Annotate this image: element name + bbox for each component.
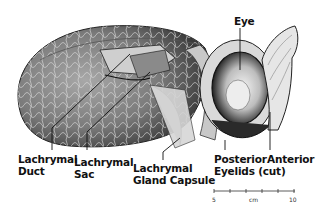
label-posterior-line2: Eyelids (cut) — [214, 165, 285, 177]
label-lachrymal-sac: Lachrymal Sac — [74, 156, 133, 180]
label-lachrymal-sac-line1: Lachrymal — [74, 156, 133, 168]
scale-start-label: 5 — [212, 196, 216, 203]
label-anterior: Anterior — [267, 153, 314, 165]
scale-bar — [214, 189, 295, 193]
label-lachrymal-duct-line1: Lachrymal — [18, 153, 77, 165]
scale-end-label: 10 — [289, 196, 297, 203]
label-eye: Eye — [234, 15, 255, 27]
label-gland-capsule-line2: Gland Capsule — [133, 174, 215, 186]
gland-illustration — [0, 0, 328, 220]
scale-unit-label: cm — [249, 196, 258, 203]
diagram-canvas: Eye Lachrymal Duct Lachrymal Sac Lachrym… — [0, 0, 328, 220]
label-lachrymal-gland-capsule: Lachrymal Gland Capsule — [133, 162, 215, 186]
label-lachrymal-sac-line2: Sac — [74, 168, 133, 180]
label-lachrymal-duct: Lachrymal Duct — [18, 153, 77, 177]
label-lachrymal-duct-line2: Duct — [18, 165, 77, 177]
label-gland-capsule-line1: Lachrymal — [133, 162, 215, 174]
